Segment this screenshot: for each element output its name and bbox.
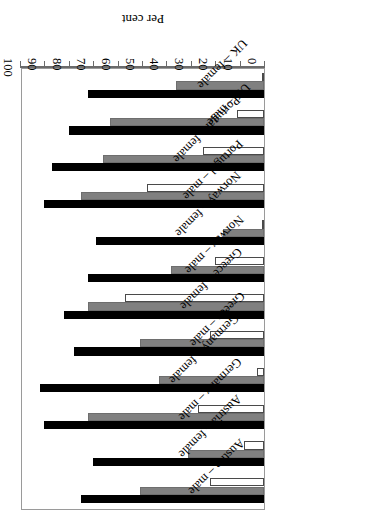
bar-series-black <box>69 126 264 134</box>
x-axis-tick <box>93 61 94 68</box>
x-axis-tick <box>240 61 241 68</box>
x-axis-tick <box>69 61 70 68</box>
bar-series-black <box>81 495 264 503</box>
x-axis-tick-label: 30 <box>171 58 186 71</box>
x-axis-title: Per cent <box>21 11 265 27</box>
bar-series-white <box>262 220 264 228</box>
bar-series-black <box>40 384 264 392</box>
bar-series-white <box>210 478 264 486</box>
bar-series-white <box>237 110 264 118</box>
x-axis-tick-label: 70 <box>73 58 88 71</box>
bar-group <box>22 478 264 503</box>
x-axis-tick <box>142 61 143 68</box>
x-axis-tick <box>191 61 192 68</box>
x-axis-tick-label: 40 <box>146 58 161 71</box>
x-axis-tick-label: 100 <box>0 58 15 77</box>
bar-series-black <box>44 200 264 208</box>
x-axis-tick <box>44 61 45 68</box>
bar-chart-figure: Per cent 0102030405060708090100Austria –… <box>0 0 390 532</box>
bar-series-white <box>262 73 264 81</box>
x-axis-tick-label: 80 <box>49 58 64 71</box>
x-axis-tick <box>118 61 119 68</box>
bar-series-grey <box>81 192 264 200</box>
bar-series-white <box>257 368 264 376</box>
bar-series-black <box>88 274 264 282</box>
x-axis-tick <box>20 61 21 68</box>
bar-series-grey <box>110 118 264 126</box>
bar-series-black <box>93 458 264 466</box>
bar-series-black <box>44 421 264 429</box>
x-axis-tick-label: 90 <box>24 58 39 71</box>
bar-series-black <box>74 347 264 355</box>
x-axis-tick-label: 0 <box>244 58 259 64</box>
x-axis-tick <box>166 61 167 68</box>
x-axis-tick-label: 50 <box>122 58 137 71</box>
x-axis-tick <box>264 61 265 68</box>
x-axis-tick-label: 60 <box>98 58 113 71</box>
